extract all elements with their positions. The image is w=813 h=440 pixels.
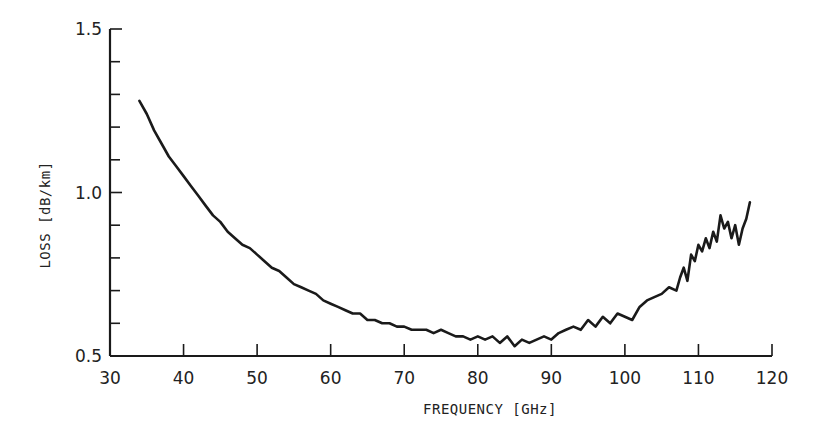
x-tick-label: 90: [541, 368, 563, 388]
x-tick-label: 110: [682, 368, 714, 388]
x-tick-label: 60: [320, 368, 342, 388]
x-tick-label: 100: [609, 368, 641, 388]
y-tick-label: 0.5: [75, 346, 102, 366]
x-tick-label: 30: [99, 368, 121, 388]
loss-vs-frequency-chart: 0.51.01.5 30405060708090100110120 LOSS […: [0, 0, 813, 440]
y-axis-title: LOSS [dB/km]: [37, 161, 53, 268]
y-tick-label: 1.5: [75, 19, 102, 39]
x-axis: 30405060708090100110120: [99, 344, 788, 388]
x-tick-label: 120: [756, 368, 788, 388]
y-axis: 0.51.01.5: [75, 19, 122, 366]
x-axis-title: FREQUENCY [GHz]: [423, 401, 557, 417]
x-tick-label: 40: [173, 368, 195, 388]
x-tick-label: 50: [246, 368, 268, 388]
y-tick-label: 1.0: [75, 183, 102, 203]
loss-curve: [139, 101, 750, 346]
x-tick-label: 70: [393, 368, 415, 388]
x-tick-label: 80: [467, 368, 489, 388]
